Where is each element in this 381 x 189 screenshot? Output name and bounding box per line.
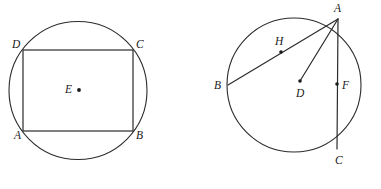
- vertex-label-b-right: B: [214, 79, 221, 91]
- center-label-e: E: [64, 83, 72, 95]
- vertex-label-a-left: A: [13, 129, 22, 141]
- center-point-e-dot: [77, 88, 81, 92]
- point-f-dot: [335, 82, 339, 86]
- vertex-label-d-left: D: [11, 38, 21, 50]
- geometry-figure-canvas: D C A B E A B C D F H: [0, 0, 381, 189]
- chord-ab: [228, 19, 338, 85]
- vertex-label-d-right: D: [295, 87, 305, 99]
- left-figure-group: D C A B E: [9, 22, 147, 160]
- right-circle: [227, 18, 361, 152]
- vertex-label-c-right: C: [335, 154, 343, 166]
- segment-ad: [300, 19, 338, 81]
- right-figure-group: A B C D F H: [214, 2, 361, 166]
- vertex-label-a-right: A: [333, 2, 342, 14]
- vertex-label-b-left: B: [136, 129, 143, 141]
- vertex-label-c-left: C: [136, 38, 144, 50]
- point-d-dot: [298, 79, 302, 83]
- vertex-label-f-right: F: [341, 79, 350, 91]
- vertex-label-h-right: H: [274, 35, 284, 47]
- point-h-dot: [279, 50, 283, 54]
